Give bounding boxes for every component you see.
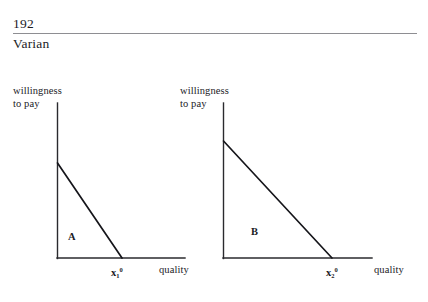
panel-b-x-axis-label: quality	[374, 264, 404, 277]
panel-a-x-axis-label: quality	[159, 264, 189, 277]
panel-b-y-axis-label-line1: willingness	[180, 85, 229, 96]
panel-b-demand-line	[224, 141, 333, 258]
panel-b-axes	[223, 103, 372, 259]
panel-a-x-tick-superscript: 0	[120, 266, 123, 273]
panel-a-y-axis-label-line2: to pay	[13, 98, 62, 111]
figure-two-panel-diagram	[0, 0, 428, 302]
diagram-svg	[0, 0, 428, 302]
panel-a-region-label: A	[68, 231, 76, 244]
panel-b-region-label: B	[251, 226, 258, 239]
panel-a-x-tick-label: x10	[111, 264, 123, 283]
panel-a-axes	[57, 103, 185, 259]
panel-a-demand-line	[58, 163, 123, 258]
panel-b-y-axis-label: willingness to pay	[180, 85, 229, 110]
panel-b-x-tick-superscript: 0	[335, 266, 338, 273]
panel-a-x-tick-subscript: 1	[116, 272, 119, 279]
panel-b-x-tick-label: x20	[326, 264, 338, 283]
textbook-page: 192 Varian willingness to pay A x10 qual…	[0, 0, 428, 302]
panel-a-y-axis-label-line1: willingness	[13, 85, 62, 96]
panel-b-y-axis-label-line2: to pay	[180, 98, 229, 111]
panel-a-y-axis-label: willingness to pay	[13, 85, 62, 110]
panel-b-x-tick-subscript: 2	[331, 272, 334, 279]
